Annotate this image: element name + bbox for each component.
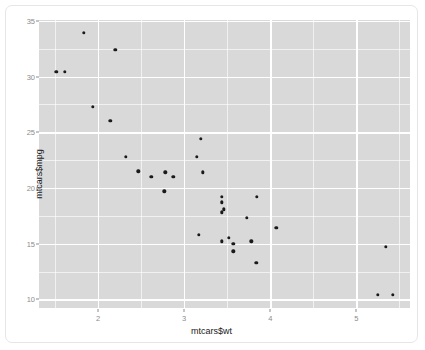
data-point [250, 240, 253, 243]
y-tick-mark [36, 132, 39, 133]
gridline-minor-horizontal [39, 216, 410, 217]
y-tick-label: 20 [20, 183, 35, 192]
y-tick-label: 25 [20, 128, 35, 137]
y-tick-label: 15 [20, 239, 35, 248]
data-point [197, 233, 200, 236]
data-point [136, 170, 139, 173]
data-point [384, 245, 387, 248]
x-tick-label: 2 [96, 314, 100, 323]
data-point [150, 175, 153, 178]
data-point [227, 236, 230, 239]
gridline-major-horizontal [39, 244, 410, 245]
gridline-minor-vertical [55, 20, 56, 308]
y-tick-mark [36, 20, 39, 21]
x-tick-label: 5 [354, 314, 358, 323]
data-point [245, 216, 248, 219]
y-tick-mark [36, 243, 39, 244]
data-point [114, 48, 117, 51]
x-tick-label: 3 [182, 314, 186, 323]
gridline-major-vertical [184, 20, 185, 308]
x-tick-mark [270, 309, 271, 312]
x-tick-mark [184, 309, 185, 312]
data-point [220, 240, 223, 243]
data-point [163, 190, 166, 193]
y-axis-title: mtcars$mpg [34, 149, 44, 199]
data-point [124, 155, 127, 158]
data-point [255, 195, 258, 198]
gridline-major-horizontal [39, 77, 410, 78]
gridline-major-vertical [98, 20, 99, 308]
x-tick-mark [98, 309, 99, 312]
gridline-major-horizontal [39, 299, 410, 300]
data-point [201, 171, 204, 174]
x-axis-title: mtcars$wt [6, 326, 417, 336]
y-tick-label: 10 [20, 295, 35, 304]
data-point [164, 171, 167, 174]
gridline-major-horizontal [39, 188, 410, 189]
x-tick-label: 4 [268, 314, 272, 323]
gridline-minor-horizontal [39, 272, 410, 273]
plot-card: 101520253035 2345 mtcars$wt mtcars$mpg [5, 5, 418, 343]
gridline-major-vertical [270, 20, 271, 308]
data-point [55, 70, 58, 73]
y-tick-mark [36, 299, 39, 300]
data-point [232, 250, 235, 253]
y-tick-label: 30 [20, 72, 35, 81]
data-point [220, 211, 223, 214]
gridline-minor-vertical [399, 20, 400, 308]
data-point [172, 175, 175, 178]
gridline-minor-horizontal [39, 104, 410, 105]
y-tick-label: 35 [20, 16, 35, 25]
data-point [220, 195, 223, 198]
gridline-minor-horizontal [39, 49, 410, 50]
x-tick-mark [356, 309, 357, 312]
gridline-major-horizontal [39, 132, 410, 133]
gridline-major-vertical [356, 20, 357, 308]
y-tick-mark [36, 76, 39, 77]
data-point [255, 261, 258, 264]
data-point [82, 31, 85, 34]
data-point [275, 226, 278, 229]
data-point [199, 137, 202, 140]
data-point [63, 70, 66, 73]
gridline-minor-vertical [141, 20, 142, 308]
data-point [91, 105, 94, 108]
gridline-minor-vertical [313, 20, 314, 308]
data-point [376, 293, 379, 296]
gridline-minor-vertical [227, 20, 228, 308]
gridline-minor-horizontal [39, 160, 410, 161]
data-point [391, 293, 394, 296]
data-point [220, 201, 223, 204]
plot-panel [39, 20, 410, 308]
data-point [108, 119, 111, 122]
gridline-major-horizontal [39, 21, 410, 22]
data-point [195, 155, 198, 158]
